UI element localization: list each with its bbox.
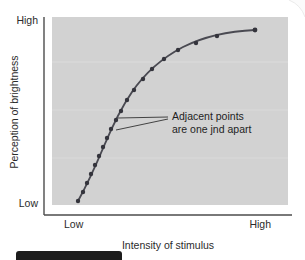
data-point <box>76 199 80 203</box>
data-point <box>114 118 118 122</box>
caption-bar <box>16 251 122 260</box>
data-point <box>109 127 113 131</box>
data-point <box>141 77 145 81</box>
annotation-line-2: are one jnd apart <box>172 123 251 135</box>
data-point <box>85 181 89 185</box>
data-point <box>125 98 129 102</box>
figure-container: Adjacent points are one jnd apart High L… <box>0 0 305 260</box>
annotation-line-1: Adjacent points <box>172 110 244 122</box>
data-point <box>215 34 219 38</box>
data-point <box>132 88 136 92</box>
data-point <box>97 154 101 158</box>
data-point <box>162 57 166 61</box>
data-point <box>253 28 258 33</box>
y-axis-low-label: Low <box>19 197 39 209</box>
data-point <box>89 172 93 176</box>
x-axis-high-label: High <box>249 218 271 230</box>
x-axis-title: Intensity of stimulus <box>122 239 214 251</box>
data-point <box>194 41 198 45</box>
y-axis-high-label: High <box>16 14 38 26</box>
data-point <box>81 190 85 194</box>
data-point <box>176 48 180 52</box>
data-point <box>119 109 123 113</box>
data-point <box>93 163 97 167</box>
data-point <box>150 67 154 71</box>
y-axis-title: Perception of brightness <box>8 55 20 168</box>
data-point <box>105 136 109 140</box>
data-point <box>101 145 105 149</box>
x-axis-low-label: Low <box>64 218 84 230</box>
perception-of-brightness-chart: Adjacent points are one jnd apart High L… <box>0 0 305 260</box>
plot-area-background <box>52 17 288 205</box>
